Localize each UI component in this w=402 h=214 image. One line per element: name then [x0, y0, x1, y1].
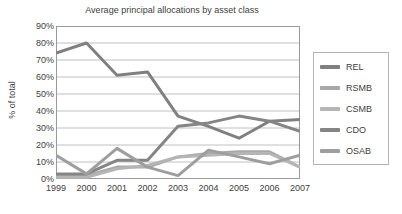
- y-tick-label: 10%: [22, 157, 54, 167]
- x-tick-label: 2004: [194, 183, 224, 193]
- legend-label: CSMB: [346, 104, 372, 114]
- legend-item-rel[interactable]: REL: [320, 60, 364, 74]
- legend-label: OSAB: [346, 146, 371, 156]
- legend-item-osab[interactable]: OSAB: [320, 144, 371, 158]
- x-tick-label: 2006: [255, 183, 285, 193]
- legend-label: REL: [346, 62, 364, 72]
- chart-legend: RELRSMBCSMBCDOOSAB: [313, 52, 389, 165]
- legend-item-csmb[interactable]: CSMB: [320, 102, 372, 116]
- x-tick-label: 1999: [41, 183, 71, 193]
- chart-figure: Average principal allocations by asset c…: [0, 0, 402, 214]
- x-tick-label: 2001: [102, 183, 132, 193]
- plot-svg: [56, 26, 300, 179]
- y-tick-label: 60%: [22, 72, 54, 82]
- legend-label: RSMB: [346, 83, 372, 93]
- legend-item-cdo[interactable]: CDO: [320, 123, 366, 137]
- legend-swatch-cdo: [320, 128, 340, 132]
- x-tick-label: 2003: [163, 183, 193, 193]
- y-tick-label: 50%: [22, 89, 54, 99]
- y-tick-label: 90%: [22, 21, 54, 31]
- legend-item-rsmb[interactable]: RSMB: [320, 81, 372, 95]
- legend-swatch-rsmb: [320, 86, 340, 90]
- y-tick-label: 30%: [22, 123, 54, 133]
- plot-area: [56, 26, 300, 179]
- y-axis-tick-labels: 0%10%20%30%40%50%60%70%80%90%: [22, 18, 54, 187]
- y-tick-label: 80%: [22, 38, 54, 48]
- x-tick-label: 2005: [224, 183, 254, 193]
- series-line-rel: [56, 43, 300, 138]
- y-tick-label: 70%: [22, 55, 54, 65]
- legend-swatch-csmb: [320, 107, 340, 111]
- legend-swatch-osab: [320, 149, 340, 153]
- x-tick-label: 2002: [133, 183, 163, 193]
- y-axis-label: % of total: [7, 60, 17, 140]
- y-tick-label: 20%: [22, 140, 54, 150]
- x-axis-tick-labels: 199920002001200220032004200520062007: [56, 183, 300, 197]
- y-tick-label: 40%: [22, 106, 54, 116]
- legend-label: CDO: [346, 125, 366, 135]
- chart-title: Average principal allocations by asset c…: [52, 5, 292, 15]
- x-tick-label: 2007: [285, 183, 315, 193]
- x-tick-label: 2000: [72, 183, 102, 193]
- legend-swatch-rel: [320, 65, 340, 69]
